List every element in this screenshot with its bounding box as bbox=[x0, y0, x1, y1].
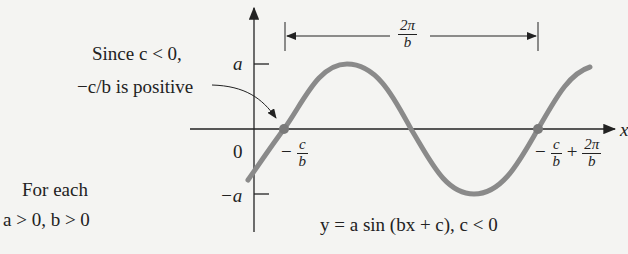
pointer-arrow bbox=[212, 85, 276, 118]
neg-c-over-b-label: −c/b is positive bbox=[77, 77, 193, 96]
for-each-label: For each bbox=[22, 180, 88, 199]
period-num: 2π bbox=[398, 18, 417, 35]
y-label-zero: 0 bbox=[233, 142, 243, 161]
y-label-a: a bbox=[233, 54, 243, 73]
zero-crossing-label-1: − cb bbox=[281, 137, 308, 170]
period-den: b bbox=[402, 35, 414, 51]
two-pi-num: 2π bbox=[582, 137, 601, 154]
b-den: b bbox=[586, 154, 598, 170]
zero-crossing-dot-2 bbox=[533, 124, 543, 134]
x-axis-label: x bbox=[620, 120, 628, 139]
c-num: c bbox=[297, 137, 308, 154]
b-den: b bbox=[550, 154, 562, 170]
period-label: 2πb bbox=[398, 18, 417, 51]
minus-sign: − bbox=[535, 141, 546, 162]
y-label-neg-a: −a bbox=[220, 186, 242, 205]
conditions-label: a > 0, b > 0 bbox=[3, 210, 90, 229]
equation-label: y = a sin (bx + c), c < 0 bbox=[320, 215, 498, 234]
plus-sign: + bbox=[567, 141, 578, 162]
since-label: Since c < 0, bbox=[92, 44, 182, 63]
zero-crossing-label-2: − cb + 2πb bbox=[535, 137, 601, 170]
minus-sign: − bbox=[281, 141, 292, 162]
b-den: b bbox=[296, 154, 308, 170]
zero-crossing-dot-1 bbox=[279, 124, 289, 134]
c-num: c bbox=[551, 137, 562, 154]
